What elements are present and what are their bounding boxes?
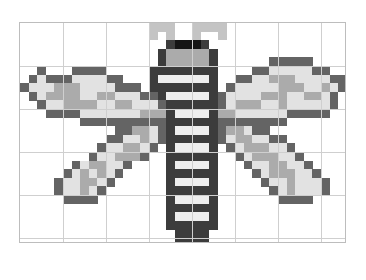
pixel-cell[interactable]: [149, 66, 158, 75]
pixel-cell[interactable]: [209, 100, 218, 109]
pixel-cell[interactable]: [183, 57, 192, 66]
pixel-cell[interactable]: [192, 212, 201, 221]
pixel-cell[interactable]: [269, 100, 278, 109]
pixel-cell[interactable]: [304, 161, 313, 170]
pixel-cell[interactable]: [278, 57, 287, 66]
pixel-cell[interactable]: [252, 83, 261, 92]
pixel-cell[interactable]: [166, 118, 175, 127]
pixel-cell[interactable]: [37, 75, 46, 84]
pixel-cell[interactable]: [209, 169, 218, 178]
pixel-cell[interactable]: [46, 83, 55, 92]
pixel-cell[interactable]: [123, 83, 132, 92]
pixel-cell[interactable]: [192, 23, 201, 32]
pixel-cell[interactable]: [166, 66, 175, 75]
pixel-cell[interactable]: [140, 152, 149, 161]
pixel-cell[interactable]: [192, 238, 201, 243]
pixel-cell[interactable]: [132, 100, 141, 109]
pixel-cell[interactable]: [183, 118, 192, 127]
pixel-cell[interactable]: [287, 161, 296, 170]
pixel-cell[interactable]: [132, 152, 141, 161]
pixel-cell[interactable]: [175, 161, 184, 170]
pixel-cell[interactable]: [338, 75, 346, 84]
pixel-cell[interactable]: [201, 109, 210, 118]
pixel-cell[interactable]: [218, 100, 227, 109]
pixel-cell[interactable]: [166, 195, 175, 204]
pixel-cell[interactable]: [278, 66, 287, 75]
pixel-cell[interactable]: [201, 178, 210, 187]
pixel-cell[interactable]: [166, 161, 175, 170]
pixel-cell[interactable]: [175, 178, 184, 187]
pixel-cell[interactable]: [80, 195, 89, 204]
pixel-cell[interactable]: [106, 135, 115, 144]
pixel-cell[interactable]: [269, 152, 278, 161]
pixel-cell[interactable]: [304, 169, 313, 178]
pixel-cell[interactable]: [312, 66, 321, 75]
pixel-cell[interactable]: [209, 143, 218, 152]
pixel-cell[interactable]: [209, 152, 218, 161]
pixel-cell[interactable]: [269, 118, 278, 127]
pixel-cell[interactable]: [140, 118, 149, 127]
pixel-cell[interactable]: [175, 109, 184, 118]
pixel-cell[interactable]: [269, 135, 278, 144]
pixel-cell[interactable]: [192, 83, 201, 92]
pixel-cell[interactable]: [304, 83, 313, 92]
pixel-cell[interactable]: [287, 57, 296, 66]
pixel-cell[interactable]: [183, 178, 192, 187]
pixel-cell[interactable]: [201, 126, 210, 135]
pixel-cell[interactable]: [132, 83, 141, 92]
pixel-cell[interactable]: [312, 100, 321, 109]
pixel-cell[interactable]: [37, 92, 46, 101]
pixel-cell[interactable]: [183, 83, 192, 92]
pixel-cell[interactable]: [72, 161, 81, 170]
pixel-cell[interactable]: [261, 143, 270, 152]
pixel-cell[interactable]: [192, 118, 201, 127]
pixel-cell[interactable]: [338, 83, 346, 92]
pixel-cell[interactable]: [37, 66, 46, 75]
pixel-cell[interactable]: [80, 75, 89, 84]
pixel-cell[interactable]: [54, 75, 63, 84]
pixel-cell[interactable]: [175, 49, 184, 58]
pixel-cell[interactable]: [312, 75, 321, 84]
pixel-cell[interactable]: [261, 169, 270, 178]
pixel-cell[interactable]: [287, 186, 296, 195]
pixel-cell[interactable]: [63, 75, 72, 84]
pixel-cell[interactable]: [115, 161, 124, 170]
pixel-cell[interactable]: [192, 229, 201, 238]
pixel-cell[interactable]: [166, 92, 175, 101]
pixel-cell[interactable]: [72, 178, 81, 187]
pixel-cell[interactable]: [226, 92, 235, 101]
pixel-cell[interactable]: [97, 178, 106, 187]
pixel-cell[interactable]: [29, 92, 38, 101]
pixel-cell[interactable]: [278, 75, 287, 84]
pixel-cell[interactable]: [261, 83, 270, 92]
pixel-cell[interactable]: [132, 92, 141, 101]
pixel-cell[interactable]: [149, 143, 158, 152]
pixel-cell[interactable]: [149, 118, 158, 127]
pixel-cell[interactable]: [261, 92, 270, 101]
pixel-cell[interactable]: [97, 100, 106, 109]
pixel-cell[interactable]: [321, 92, 330, 101]
pixel-cell[interactable]: [201, 92, 210, 101]
pixel-cell[interactable]: [278, 83, 287, 92]
pixel-cell[interactable]: [63, 92, 72, 101]
pixel-cell[interactable]: [158, 100, 167, 109]
pixel-cell[interactable]: [175, 57, 184, 66]
pixel-cell[interactable]: [201, 212, 210, 221]
pixel-cell[interactable]: [269, 66, 278, 75]
pixel-cell[interactable]: [235, 109, 244, 118]
pixel-cell[interactable]: [54, 109, 63, 118]
pixel-cell[interactable]: [175, 100, 184, 109]
pixel-cell[interactable]: [278, 178, 287, 187]
pixel-cell[interactable]: [304, 109, 313, 118]
pixel-cell[interactable]: [226, 109, 235, 118]
pixel-cell[interactable]: [115, 100, 124, 109]
pixel-cell[interactable]: [175, 238, 184, 243]
pixel-cell[interactable]: [89, 178, 98, 187]
pixel-cell[interactable]: [252, 143, 261, 152]
pixel-cell[interactable]: [149, 100, 158, 109]
pixel-cell[interactable]: [175, 118, 184, 127]
pixel-cell[interactable]: [261, 135, 270, 144]
pixel-cell[interactable]: [252, 92, 261, 101]
pixel-cell[interactable]: [218, 23, 227, 32]
pixel-cell[interactable]: [183, 204, 192, 213]
